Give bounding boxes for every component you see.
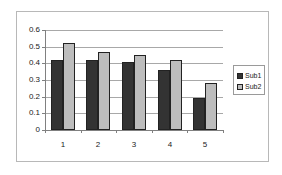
x-tick-label: 1 — [53, 140, 73, 149]
legend-swatch-sub2 — [237, 84, 243, 90]
y-tick-label: 0.1 — [18, 109, 40, 117]
bar-sub1-5 — [193, 98, 205, 130]
y-tick-label: 0.5 — [18, 43, 40, 51]
bar-sub1-1 — [51, 60, 63, 130]
y-axis — [45, 30, 46, 130]
gridline — [45, 30, 223, 31]
x-tick — [45, 130, 46, 133]
y-tick-label: 0.4 — [18, 59, 40, 67]
x-tick-label: 4 — [160, 140, 180, 149]
x-axis — [45, 130, 223, 131]
legend-label: Sub1 — [245, 72, 261, 79]
bar-sub2-1 — [63, 43, 75, 130]
bar-sub1-2 — [86, 60, 98, 130]
bar-sub2-2 — [98, 52, 110, 130]
legend-swatch-sub1 — [237, 73, 243, 79]
x-tick-label: 2 — [88, 140, 108, 149]
legend-item-sub1: Sub1 — [237, 71, 261, 80]
x-tick — [81, 130, 82, 133]
legend: Sub1 Sub2 — [233, 65, 265, 95]
bar-sub1-3 — [122, 62, 134, 130]
x-tick-label: 5 — [195, 140, 215, 149]
x-tick — [152, 130, 153, 133]
y-tick-label: 0.3 — [18, 76, 40, 84]
x-tick-label: 3 — [124, 140, 144, 149]
bar-sub2-5 — [205, 83, 217, 130]
legend-label: Sub2 — [245, 83, 261, 90]
y-tick-label: 0.6 — [18, 26, 40, 34]
x-tick — [223, 130, 224, 133]
bar-sub2-4 — [170, 60, 182, 130]
y-tick-label: 0 — [18, 126, 40, 134]
x-tick — [116, 130, 117, 133]
bar-sub1-4 — [158, 70, 170, 130]
legend-item-sub2: Sub2 — [237, 82, 261, 91]
y-tick-label: 0.2 — [18, 93, 40, 101]
x-tick — [187, 130, 188, 133]
bar-sub2-3 — [134, 55, 146, 130]
